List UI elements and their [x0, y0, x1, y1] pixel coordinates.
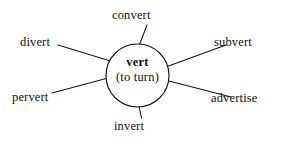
- word-web-diagram: convert divert subvert pervert advertise…: [0, 0, 284, 142]
- spoke-line-pervert: [52, 78, 108, 93]
- node-label-convert: convert: [112, 9, 151, 22]
- center-root-word: vert: [106, 56, 169, 70]
- node-label-divert: divert: [20, 36, 50, 49]
- node-label-subvert: subvert: [214, 36, 252, 49]
- spoke-line-invert: [139, 106, 142, 118]
- spoke-line-convert: [140, 25, 148, 45]
- center-root-gloss: (to turn): [106, 71, 169, 85]
- node-label-pervert: pervert: [12, 91, 48, 104]
- node-label-invert: invert: [114, 120, 144, 133]
- node-label-advertise: advertise: [211, 92, 257, 105]
- spoke-line-divert: [58, 45, 111, 61]
- center-node-text: vert (to turn): [106, 56, 169, 84]
